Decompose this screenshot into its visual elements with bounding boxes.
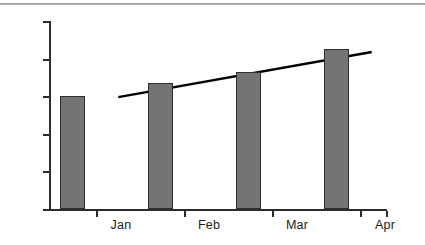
- y-tick-mark: [43, 209, 49, 211]
- y-axis-line: [49, 21, 51, 210]
- x-tick-mark: [360, 211, 362, 217]
- bar-jan: [60, 96, 85, 209]
- x-axis-label-mar: Mar: [267, 219, 327, 232]
- x-tick-mark: [386, 211, 388, 217]
- y-tick-mark: [43, 134, 49, 136]
- x-axis-label-apr: Apr: [355, 219, 415, 232]
- x-tick-mark: [184, 211, 186, 217]
- y-tick-mark: [43, 59, 49, 61]
- y-tick-mark: [43, 171, 49, 173]
- x-axis-line: [49, 209, 387, 211]
- plot-area: 1.0 0.8 0.6 0.4 0.2 0.0 Jan Feb Mar Apr: [49, 21, 387, 209]
- x-axis-label-feb: Feb: [179, 219, 239, 232]
- bar-apr: [324, 49, 349, 209]
- y-tick-mark: [43, 21, 49, 23]
- x-tick-mark: [272, 211, 274, 217]
- x-axis-label-jan: Jan: [91, 219, 151, 232]
- bar-mar: [236, 72, 261, 209]
- bar-chart-figure: 1.0 0.8 0.6 0.4 0.2 0.0 Jan Feb Mar Apr: [0, 0, 425, 245]
- x-tick-mark: [96, 211, 98, 217]
- top-divider-rule: [0, 3, 425, 5]
- bar-feb: [148, 83, 173, 209]
- y-tick-mark: [43, 96, 49, 98]
